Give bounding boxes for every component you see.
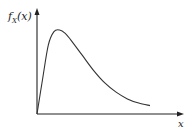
x-axis-arrowhead <box>177 112 184 117</box>
density-curve <box>37 30 150 114</box>
density-diagram: fX(x) x <box>0 0 192 134</box>
x-axis-label: x <box>178 118 184 129</box>
y-axis-label: fX(x) <box>7 10 32 25</box>
y-axis-arrowhead <box>35 8 40 15</box>
